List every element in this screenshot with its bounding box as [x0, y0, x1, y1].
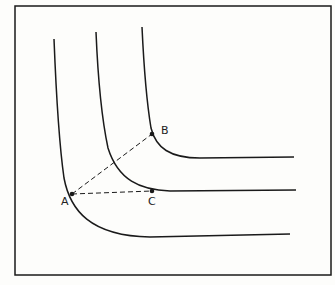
- curve-3: [142, 27, 294, 158]
- curve-1: [54, 39, 290, 237]
- diagram-figure: ABC: [0, 0, 335, 285]
- point-label-a: A: [61, 195, 69, 208]
- dashed-line-ac: [72, 191, 152, 194]
- point-label-b: B: [161, 124, 169, 137]
- point-c: [150, 189, 155, 194]
- point-b: [150, 132, 155, 137]
- curve-2: [96, 32, 296, 191]
- diagram-canvas: [0, 0, 335, 285]
- point-label-c: C: [148, 195, 156, 208]
- point-a: [70, 192, 75, 197]
